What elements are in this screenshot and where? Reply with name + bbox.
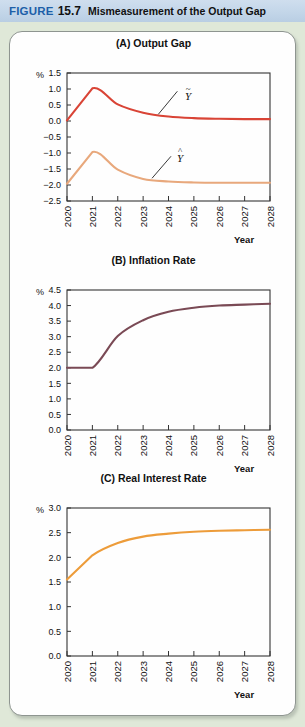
- chart-a-plot-area: 1.51.00.50.0−0.5−1.0−1.5−2.0−2.520202021…: [10, 51, 296, 247]
- svg-text:2.0: 2.0: [48, 363, 61, 373]
- svg-text:2024: 2024: [163, 661, 174, 682]
- svg-text:2020: 2020: [62, 661, 73, 682]
- svg-text:1.0: 1.0: [48, 84, 61, 94]
- svg-text:0.5: 0.5: [48, 410, 61, 420]
- svg-text:2026: 2026: [214, 435, 225, 456]
- svg-text:2022: 2022: [112, 661, 123, 682]
- svg-text:2028: 2028: [265, 661, 276, 682]
- svg-text:2025: 2025: [188, 661, 199, 682]
- svg-text:2025: 2025: [188, 206, 199, 227]
- chart-a-true-gap-label: ~ Y: [185, 87, 191, 102]
- svg-text:1.5: 1.5: [48, 577, 61, 587]
- svg-text:2024: 2024: [163, 435, 174, 456]
- hat-base: Y: [177, 153, 183, 164]
- chart-b-percent-label: %: [36, 287, 44, 297]
- chart-c-plot-area: 3.02.52.01.51.00.50.02020202120222023202…: [10, 486, 296, 702]
- chart-a-estimate-gap-label: ^ Y: [177, 149, 183, 164]
- svg-text:−2.0: −2.0: [43, 180, 61, 190]
- chart-a-percent-label: %: [36, 70, 44, 80]
- svg-text:2023: 2023: [138, 435, 149, 456]
- svg-text:4.5: 4.5: [48, 285, 61, 295]
- figure-page: FIGURE 15.7 Mismeasurement of the Output…: [0, 0, 305, 727]
- figure-title: Mismeasurement of the Output Gap: [88, 5, 266, 17]
- svg-text:2021: 2021: [87, 435, 98, 456]
- chart-b-title: (B) Inflation Rate: [10, 254, 296, 266]
- svg-text:0.5: 0.5: [48, 100, 61, 110]
- svg-text:2020: 2020: [62, 435, 73, 456]
- svg-text:2027: 2027: [239, 206, 250, 227]
- figure-number: 15.7: [58, 4, 81, 18]
- svg-text:3.0: 3.0: [48, 332, 61, 342]
- svg-text:2026: 2026: [214, 661, 225, 682]
- svg-text:2024: 2024: [163, 206, 174, 227]
- chart-b-plot-area: 4.54.03.53.02.52.01.51.00.50.02020202120…: [10, 268, 296, 464]
- svg-text:−1.5: −1.5: [43, 164, 61, 174]
- svg-text:−0.5: −0.5: [43, 132, 61, 142]
- svg-text:1.5: 1.5: [48, 379, 61, 389]
- svg-text:2027: 2027: [239, 661, 250, 682]
- svg-text:2028: 2028: [265, 435, 276, 456]
- svg-text:0.0: 0.0: [48, 651, 61, 661]
- chart-output-gap: (A) Output Gap 1.51.00.50.0−0.5−1.0−1.5−…: [10, 37, 296, 259]
- svg-text:3.5: 3.5: [48, 316, 61, 326]
- svg-text:2022: 2022: [112, 435, 123, 456]
- chart-c-svg: 3.02.52.01.51.00.50.02020202120222023202…: [10, 486, 296, 702]
- svg-text:−1.0: −1.0: [43, 148, 61, 158]
- svg-text:0.0: 0.0: [48, 116, 61, 126]
- svg-text:1.5: 1.5: [48, 68, 61, 78]
- svg-text:2.5: 2.5: [48, 347, 61, 357]
- chart-c-title: (C) Real Interest Rate: [10, 472, 296, 484]
- chart-a-svg: 1.51.00.50.0−0.5−1.0−1.5−2.0−2.520202021…: [10, 51, 296, 247]
- svg-text:−2.5: −2.5: [43, 196, 61, 206]
- svg-text:3.0: 3.0: [48, 503, 61, 513]
- svg-text:2021: 2021: [87, 206, 98, 227]
- chart-c-year-label: Year: [234, 689, 254, 700]
- svg-text:2027: 2027: [239, 435, 250, 456]
- svg-text:0.5: 0.5: [48, 627, 61, 637]
- svg-text:2023: 2023: [138, 206, 149, 227]
- svg-text:2026: 2026: [214, 206, 225, 227]
- svg-text:2020: 2020: [62, 206, 73, 227]
- svg-text:4.0: 4.0: [48, 301, 61, 311]
- figure-panel: (A) Output Gap 1.51.00.50.0−0.5−1.0−1.5−…: [9, 31, 296, 716]
- svg-text:1.0: 1.0: [48, 394, 61, 404]
- chart-a-year-label: Year: [234, 234, 254, 245]
- svg-text:2.5: 2.5: [48, 528, 61, 538]
- svg-text:2.0: 2.0: [48, 553, 61, 563]
- chart-a-title: (A) Output Gap: [10, 37, 296, 49]
- chart-real-interest-rate: (C) Real Interest Rate 3.02.52.01.51.00.…: [10, 472, 296, 712]
- svg-text:2022: 2022: [112, 206, 123, 227]
- figure-caption-bar: FIGURE 15.7 Mismeasurement of the Output…: [0, 0, 305, 22]
- svg-text:2025: 2025: [188, 435, 199, 456]
- svg-text:0.0: 0.0: [48, 425, 61, 435]
- figure-word: FIGURE: [9, 5, 54, 17]
- svg-text:2021: 2021: [87, 661, 98, 682]
- svg-text:2028: 2028: [265, 206, 276, 227]
- chart-b-svg: 4.54.03.53.02.52.01.51.00.50.02020202120…: [10, 268, 296, 464]
- tilde-base: Y: [185, 91, 191, 102]
- chart-c-percent-label: %: [36, 505, 44, 515]
- chart-inflation-rate: (B) Inflation Rate 4.54.03.53.02.52.01.5…: [10, 254, 296, 472]
- svg-text:2023: 2023: [138, 661, 149, 682]
- svg-text:1.0: 1.0: [48, 602, 61, 612]
